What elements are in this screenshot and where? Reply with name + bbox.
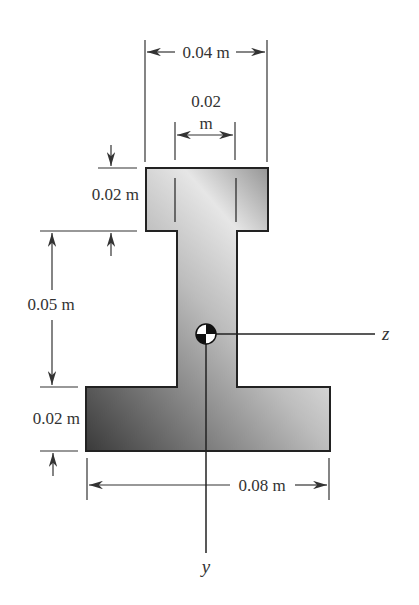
top-flange-width-label: 0.04 m: [182, 43, 229, 62]
bottom-flange-thickness-label: 0.02 m: [33, 409, 80, 428]
top-flange-thickness-label: 0.02 m: [92, 185, 139, 204]
dimension-bottom-flange-width: 0.08 m: [87, 458, 329, 500]
web-height-label: 0.05 m: [27, 295, 74, 314]
z-axis-label: z: [381, 323, 390, 344]
web-width-unit-label: m: [199, 114, 212, 133]
y-axis-label: y: [200, 556, 211, 577]
bottom-flange-width-label: 0.08 m: [238, 476, 285, 495]
dimension-web-width: 0.02 m: [175, 92, 235, 160]
web-width-number-label: 0.02: [191, 92, 221, 111]
centroid-icon: [196, 324, 216, 344]
cross-section-diagram: 0.04 m 0.02 m 0.02 m 0.05 m 0.02 m 0.08 …: [0, 0, 419, 605]
dimension-web-height: 0.05 m: [27, 233, 78, 387]
cross-section-shape: [86, 168, 330, 451]
dimension-bottom-flange-thickness: 0.02 m: [33, 409, 80, 476]
dimension-top-flange-thickness: 0.02 m: [40, 145, 139, 256]
